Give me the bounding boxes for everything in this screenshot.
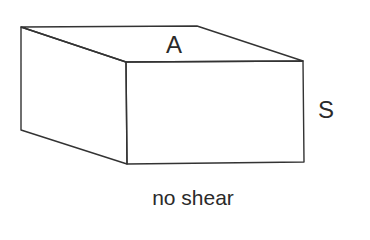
left-face — [21, 27, 127, 164]
area-label: A — [166, 31, 182, 59]
top-face — [21, 26, 303, 62]
caption: no shear — [0, 186, 370, 210]
side-label: S — [318, 96, 334, 124]
front-face — [126, 61, 304, 164]
